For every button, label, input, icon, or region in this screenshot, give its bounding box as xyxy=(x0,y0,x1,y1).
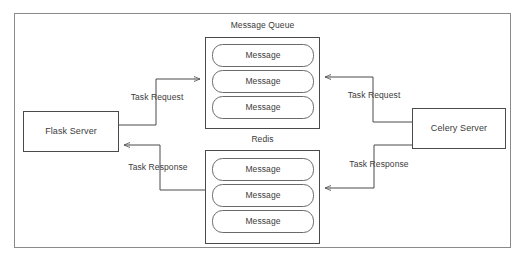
celery-server-label[interactable]: Celery Server xyxy=(413,124,505,133)
edge-label-celery-to-queue: Task Request xyxy=(334,91,414,100)
edge-label-celery-to-redis: Task Response xyxy=(334,160,424,169)
edge-label-redis-to-flask: Task Response xyxy=(113,163,203,172)
redis-title-text: Redis xyxy=(251,134,273,144)
message-queue-title-text: Message Queue xyxy=(231,20,295,30)
diagram-canvas: Message Queue Redis Flask Server Celery … xyxy=(0,0,526,264)
message-queue-item-2-label[interactable]: Message xyxy=(213,77,313,86)
message-queue-item-1-label[interactable]: Message xyxy=(213,51,313,60)
redis-item-1-label[interactable]: Message xyxy=(213,165,313,174)
redis-title: Redis xyxy=(205,135,320,144)
redis-item-3-label[interactable]: Message xyxy=(213,217,313,226)
edge-label-flask-to-queue: Task Request xyxy=(117,93,197,102)
redis-item-2-label[interactable]: Message xyxy=(213,191,313,200)
message-queue-title: Message Queue xyxy=(205,21,320,30)
flask-server-label[interactable]: Flask Server xyxy=(24,127,118,136)
message-queue-item-3-label[interactable]: Message xyxy=(213,103,313,112)
